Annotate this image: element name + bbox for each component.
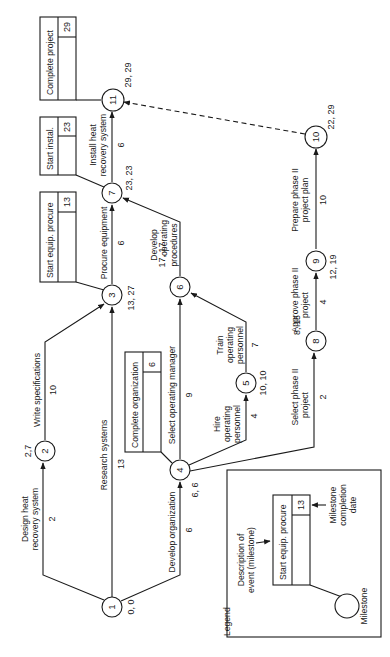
- node-10: 10 22, 29: [305, 104, 336, 148]
- svg-text:8: 8: [310, 338, 321, 343]
- edge-10-11-dummy: [124, 102, 305, 134]
- node-5: 5 10, 10: [236, 370, 268, 395]
- activity-label: Write specifications: [32, 353, 42, 427]
- activity-label: Hire: [212, 416, 222, 432]
- milestone-description: Complete project: [45, 29, 55, 95]
- svg-text:3: 3: [106, 292, 117, 297]
- svg-text:1: 1: [106, 604, 117, 609]
- legend-desc-label: Description of: [236, 533, 246, 586]
- activity-label: Research systems: [99, 420, 109, 491]
- svg-text:7: 7: [106, 190, 117, 195]
- svg-text:5: 5: [240, 380, 251, 385]
- milestone-description: Complete organization: [130, 362, 140, 448]
- node-3: 3 13, 27: [102, 285, 136, 311]
- activity-label: project: [300, 291, 310, 317]
- activity-label: procedures: [169, 224, 179, 267]
- milestone-date: 13: [62, 197, 72, 207]
- activity-label: operating: [222, 406, 232, 442]
- activity-duration: 6: [116, 240, 126, 245]
- milestone-complete-organization: Complete organization 6: [125, 352, 172, 463]
- milestone-date: 6: [147, 362, 157, 367]
- activity-label: recovery system: [98, 114, 108, 177]
- svg-text:6: 6: [174, 284, 185, 289]
- node-times: 6, 6: [190, 482, 200, 497]
- milestone-date: 29: [62, 22, 72, 32]
- edge-2-3: [45, 304, 104, 440]
- svg-text:9: 9: [310, 258, 321, 263]
- activity-duration: 6: [116, 142, 126, 147]
- activity-duration: 2: [47, 516, 57, 521]
- legend-date-label: completion: [338, 484, 348, 526]
- activity-duration: 2: [318, 394, 328, 399]
- activity-duration: 7: [250, 342, 260, 347]
- legend-title: Legend: [222, 607, 232, 636]
- node-2: 2 2,7: [23, 441, 55, 461]
- legend: Legend Start equip. procure 13 Descripti…: [222, 470, 381, 637]
- activity-label: Develop: [149, 229, 159, 261]
- activity-duration: 13: [116, 459, 126, 469]
- node-times: 22, 29: [326, 104, 336, 129]
- activity-duration: 6: [184, 527, 194, 532]
- milestone-start-equip-procure: Start equip. procure 13: [40, 192, 104, 290]
- legend-box-description: Start equip. procure: [278, 504, 288, 580]
- node-1: 1 0, 0: [102, 597, 136, 617]
- legend-date-label: Milestone: [328, 486, 338, 523]
- activity-duration: 4: [249, 413, 259, 418]
- activity-label: Prepare phase II: [290, 168, 300, 232]
- node-times: 23, 23: [124, 165, 134, 190]
- node-times: 29, 29: [123, 62, 133, 87]
- edge-1-2: [43, 463, 104, 600]
- legend-desc-label: event (milestone): [246, 527, 256, 593]
- activity-label: personnel: [235, 326, 245, 364]
- activity-duration: 10: [318, 195, 328, 205]
- legend-date-label: date: [348, 496, 358, 513]
- activity-label: Select phase II: [290, 369, 300, 426]
- activity-label: Approve phase II: [290, 268, 300, 333]
- activity-label: Procure equipment: [99, 206, 109, 279]
- activity-label: Select operating manager: [167, 346, 177, 445]
- legend-box-date: 13: [296, 500, 306, 510]
- activity-duration: 10: [48, 385, 58, 395]
- node-times: 13, 27: [126, 285, 136, 310]
- activity-label: Develop organization: [167, 491, 177, 572]
- milestone-date: 23: [62, 122, 72, 132]
- milestone-description: Start equip. procure: [45, 202, 55, 278]
- node-times: 12, 19: [328, 254, 338, 279]
- svg-text:10: 10: [310, 132, 321, 143]
- svg-text:2: 2: [39, 448, 50, 453]
- pert-network-diagram: Complete project 29 Start instal. 23 Sta…: [0, 0, 390, 657]
- milestone-complete-project: Complete project 29: [40, 17, 101, 100]
- activity-duration: 4: [318, 299, 328, 304]
- node-times: 0, 0: [126, 599, 136, 614]
- activity-label: personnel: [232, 405, 242, 443]
- node-9: 9 12, 19: [306, 251, 338, 280]
- activity-label: operating: [225, 327, 235, 363]
- activity-label: project plan: [300, 178, 310, 223]
- activity-label: Install heat: [88, 124, 98, 166]
- activity-label: Train: [215, 335, 225, 354]
- activity-label: project: [300, 391, 310, 417]
- node-times: 10, 10: [258, 370, 268, 395]
- node-11: 11 29, 29: [102, 62, 133, 111]
- activity-label: recovery system: [30, 488, 40, 551]
- node-times: 2,7: [23, 445, 33, 458]
- svg-text:11: 11: [107, 95, 118, 105]
- milestone-description: Start instal.: [45, 127, 55, 170]
- activity-duration: 9: [184, 392, 194, 397]
- legend-circle-label: Milestone: [359, 587, 369, 624]
- svg-text:4: 4: [174, 467, 185, 472]
- activity-label: Design heat: [20, 495, 30, 541]
- activity-label: operating: [159, 220, 169, 256]
